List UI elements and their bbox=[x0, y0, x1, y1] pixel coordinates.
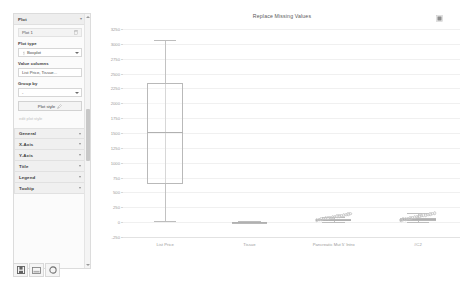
plot-type-label: Plot type bbox=[18, 41, 82, 46]
chevron-down-icon[interactable] bbox=[79, 176, 81, 178]
chevron-down-icon[interactable] bbox=[79, 165, 81, 167]
box-rect[interactable] bbox=[147, 83, 182, 184]
gridline bbox=[123, 192, 460, 193]
y-axis-tick-label: -250 bbox=[112, 235, 120, 240]
y-axis-tick-label: 3250 bbox=[111, 27, 120, 32]
y-axis-tick-label: 0 bbox=[118, 220, 120, 225]
accordion-general[interactable]: General bbox=[14, 128, 86, 139]
accordion-x-axis-label: X-Axis bbox=[19, 142, 33, 147]
plot-panel-body: Plot 1 Plot type Boxplot bbox=[14, 25, 86, 128]
chevron-down-icon[interactable] bbox=[79, 154, 81, 156]
y-axis-tick-mark bbox=[121, 59, 123, 60]
accordion-general-label: General bbox=[19, 131, 36, 136]
plot-type-value: Boxplot bbox=[27, 50, 41, 55]
y-axis-tick-label: 2250 bbox=[111, 86, 120, 91]
y-axis-tick-label: 1750 bbox=[111, 116, 120, 121]
whisker-cap-lower bbox=[407, 222, 430, 223]
y-axis-tick-mark bbox=[121, 74, 123, 75]
outlier-point bbox=[433, 211, 437, 215]
brush-icon bbox=[57, 104, 62, 109]
floppy-disk-icon bbox=[17, 266, 25, 274]
gridline bbox=[123, 74, 460, 75]
settings-accordion-list: General X-Axis Y-Axis Title Legend bbox=[14, 128, 86, 194]
accordion-y-axis-label: Y-Axis bbox=[19, 153, 33, 158]
accordion-tooltip[interactable]: Tooltip bbox=[14, 183, 86, 194]
whisker-cap-lower bbox=[322, 222, 345, 223]
accordion-legend-label: Legend bbox=[19, 175, 35, 180]
accordion-x-axis[interactable]: X-Axis bbox=[14, 139, 86, 150]
chevron-down-icon[interactable] bbox=[79, 187, 81, 189]
y-axis-tick-mark bbox=[121, 163, 123, 164]
y-axis-tick-label: 250 bbox=[113, 205, 120, 210]
whisker-cap-lower bbox=[154, 221, 177, 222]
y-axis-tick-label: 3000 bbox=[111, 41, 120, 46]
plot-settings-sidebar: Plot ▾ Plot 1 Plot type bbox=[13, 13, 91, 269]
scroll-down-arrow-icon[interactable] bbox=[86, 264, 90, 266]
y-axis-tick-mark bbox=[121, 192, 123, 193]
gridline bbox=[123, 44, 460, 45]
y-axis-tick-label: 750 bbox=[113, 175, 120, 180]
grid-menu-icon[interactable] bbox=[436, 15, 443, 22]
y-axis-tick-label: 2000 bbox=[111, 101, 120, 106]
group-by-select[interactable]: - bbox=[18, 88, 82, 97]
export-image-button[interactable] bbox=[29, 263, 44, 277]
sidebar-scrollbar[interactable] bbox=[84, 14, 90, 268]
y-axis-tick-mark bbox=[121, 222, 123, 223]
plot-type-select[interactable]: Boxplot bbox=[18, 48, 82, 57]
save-button[interactable] bbox=[13, 263, 28, 277]
chevron-down-icon[interactable] bbox=[75, 92, 79, 94]
gridline bbox=[123, 59, 460, 60]
accordion-tooltip-label: Tooltip bbox=[19, 186, 34, 191]
group-by-label: Group by bbox=[18, 81, 82, 86]
y-axis-tick-label: 500 bbox=[113, 190, 120, 195]
y-axis-tick-mark bbox=[121, 88, 123, 89]
scroll-up-arrow-icon[interactable] bbox=[86, 16, 90, 18]
accordion-title-label: Title bbox=[19, 164, 28, 169]
y-axis-tick-label: 2750 bbox=[111, 56, 120, 61]
value-columns-label: Value columns bbox=[18, 61, 82, 66]
median-line bbox=[147, 132, 182, 133]
image-icon bbox=[32, 267, 41, 274]
refresh-button[interactable] bbox=[45, 263, 60, 277]
accordion-title[interactable]: Title bbox=[14, 161, 86, 172]
plot-canvas: -250025050075010001250150017502000225025… bbox=[123, 29, 460, 237]
plot-panel-header[interactable]: Plot ▾ bbox=[14, 14, 86, 25]
chevron-down-icon[interactable] bbox=[79, 143, 81, 145]
chevron-icon[interactable]: ▾ bbox=[80, 17, 82, 21]
plot-style-hint: edit plot style bbox=[18, 116, 82, 121]
plot-application-window: Plot ▾ Plot 1 Plot type bbox=[0, 0, 472, 282]
accordion-y-axis[interactable]: Y-Axis bbox=[14, 150, 86, 161]
x-axis-tick-label: List Price bbox=[157, 242, 174, 247]
y-axis-tick-label: 2500 bbox=[111, 71, 120, 76]
chart-area: Replace Missing Values -2500250500750100… bbox=[96, 6, 468, 276]
y-axis-tick-mark bbox=[121, 103, 123, 104]
y-axis-tick-mark bbox=[121, 178, 123, 179]
boxplot-icon bbox=[22, 51, 26, 56]
median-line bbox=[232, 222, 267, 223]
chevron-down-icon[interactable] bbox=[79, 133, 81, 135]
x-axis-tick-label: #C2 bbox=[414, 242, 422, 247]
chart-title: Replace Missing Values bbox=[96, 13, 468, 19]
x-axis-tick-label: Pancreatic Mut 5' Intro bbox=[313, 242, 355, 247]
gridline bbox=[123, 29, 460, 30]
y-axis-tick-mark bbox=[121, 207, 123, 208]
scrollbar-thumb[interactable] bbox=[86, 109, 90, 161]
sidebar-scroll-content: Plot ▾ Plot 1 Plot type bbox=[14, 14, 86, 268]
y-axis-tick-mark bbox=[121, 148, 123, 149]
bottom-toolbar bbox=[13, 262, 60, 278]
y-axis-tick-mark bbox=[121, 118, 123, 119]
group-by-value: - bbox=[22, 90, 23, 95]
value-columns-input[interactable]: List Price, Tissue... bbox=[18, 68, 82, 77]
plot-list-item-1[interactable]: Plot 1 bbox=[18, 28, 82, 37]
trash-icon[interactable] bbox=[74, 30, 78, 35]
accordion-legend[interactable]: Legend bbox=[14, 172, 86, 183]
gridline bbox=[123, 207, 460, 208]
plot-style-button-label: Plot style bbox=[38, 104, 55, 109]
chevron-down-icon[interactable] bbox=[75, 52, 79, 54]
plot-style-button[interactable]: Plot style bbox=[18, 101, 82, 111]
plot-panel-title: Plot bbox=[18, 17, 27, 22]
y-axis-tick-mark bbox=[121, 133, 123, 134]
y-axis-tick-label: 1500 bbox=[111, 131, 120, 136]
whisker-cap-upper bbox=[154, 40, 177, 41]
y-axis-tick-mark bbox=[121, 29, 123, 30]
